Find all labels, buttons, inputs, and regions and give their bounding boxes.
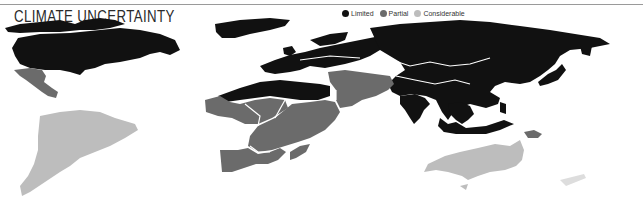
world-map	[0, 0, 643, 207]
region-greenland	[215, 18, 290, 38]
region-new-zealand	[560, 174, 586, 186]
region-nz	[560, 174, 586, 186]
region-australia	[424, 140, 524, 180]
region-middle-east	[328, 70, 394, 108]
region-indonesia	[440, 120, 514, 134]
region-madagascar	[290, 144, 310, 160]
region-south-america	[20, 110, 138, 196]
region-central-america	[14, 68, 58, 98]
region-southeast-asia	[448, 102, 474, 124]
region-tasmania	[460, 184, 468, 190]
region-north-america	[12, 28, 180, 75]
region-southern-africa	[220, 148, 286, 172]
region-kamchatka	[580, 46, 592, 56]
region-philippines	[500, 102, 506, 114]
region-india	[400, 94, 430, 124]
region-papua-new-guinea	[524, 130, 542, 138]
